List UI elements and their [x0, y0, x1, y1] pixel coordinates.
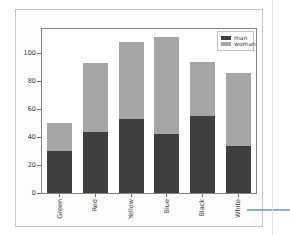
- x-tick-label-text: Green: [57, 199, 64, 219]
- y-tick-mark: [37, 81, 41, 82]
- x-tick-label: Black: [196, 199, 210, 217]
- y-tick-label: 20: [15, 162, 36, 169]
- y-tick-mark: [37, 53, 41, 54]
- x-tick-mark: [202, 194, 203, 197]
- x-tick-mark: [95, 194, 96, 197]
- x-tick-mark: [238, 194, 239, 197]
- x-tick-label: Green: [53, 199, 67, 219]
- x-tick-label-text: White: [235, 199, 242, 218]
- legend-entry-woman: woman: [221, 41, 250, 47]
- bar-segment-woman: [83, 63, 108, 131]
- bar-segment-man: [47, 151, 72, 193]
- y-tick-label: 40: [15, 134, 36, 141]
- plot-area: manwoman 020406080100GreenRedYellowBlueB…: [41, 28, 257, 194]
- y-tick-mark: [37, 137, 41, 138]
- bar-segment-man: [83, 132, 108, 193]
- x-tick-label: White: [231, 199, 245, 218]
- bar-segment-man: [119, 119, 144, 193]
- x-tick-label-text: Red: [92, 199, 99, 211]
- x-tick-label: Red: [89, 199, 103, 211]
- x-tick-label-text: Black: [199, 199, 206, 217]
- legend-label-woman: woman: [234, 41, 256, 47]
- y-tick-label: 100: [15, 50, 36, 57]
- bar-segment-woman: [47, 123, 72, 151]
- y-tick-mark: [37, 165, 41, 166]
- bar-segment-man: [154, 134, 179, 193]
- x-tick-mark: [59, 194, 60, 197]
- page-edge-line: [272, 0, 273, 235]
- y-tick-label: 80: [15, 78, 36, 85]
- figure-frame: manwoman 020406080100GreenRedYellowBlueB…: [15, 9, 263, 227]
- y-tick-label: 0: [15, 190, 36, 197]
- x-tick-mark: [131, 194, 132, 197]
- x-tick-mark: [166, 194, 167, 197]
- y-tick-mark: [37, 193, 41, 194]
- bar-segment-man: [226, 146, 251, 193]
- figure-photo: manwoman 020406080100GreenRedYellowBlueB…: [0, 0, 290, 235]
- bar-segment-woman: [226, 73, 251, 146]
- x-tick-label-text: Yellow: [128, 199, 135, 219]
- bar-segment-man: [190, 116, 215, 193]
- legend-entries: manwoman: [221, 35, 250, 47]
- legend-swatch-man: [221, 36, 231, 40]
- y-tick-label: 60: [15, 106, 36, 113]
- bar-segment-woman: [190, 62, 215, 116]
- callout-line: [247, 209, 290, 211]
- bar-segment-woman: [154, 37, 179, 135]
- y-tick-mark: [37, 109, 41, 110]
- bar-segment-woman: [119, 42, 144, 119]
- legend: manwoman: [217, 31, 254, 51]
- x-tick-label-text: Blue: [164, 199, 171, 213]
- legend-swatch-woman: [221, 42, 231, 46]
- x-tick-label: Blue: [160, 199, 174, 213]
- x-tick-label: Yellow: [124, 199, 138, 219]
